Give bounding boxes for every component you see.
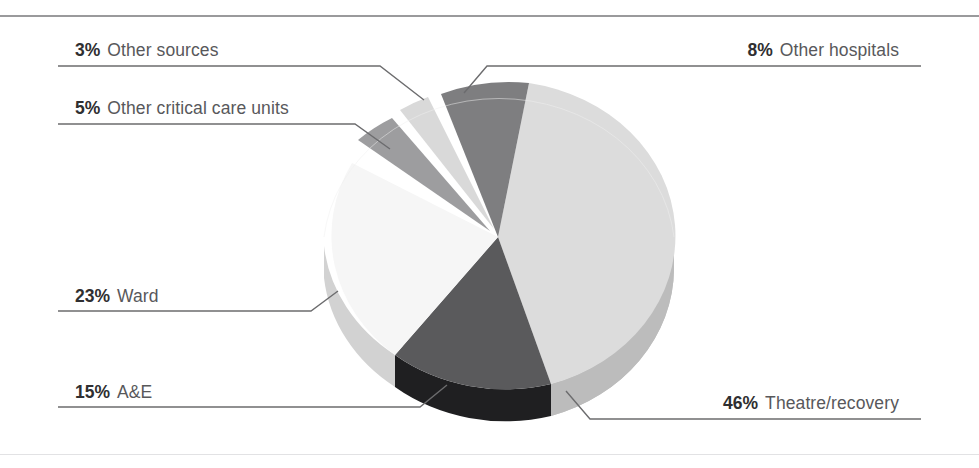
callout-label-theatre-recovery: 46%Theatre/recovery — [723, 395, 899, 413]
callout-text-ward: Ward — [117, 286, 159, 306]
callout-text-other-sources: Other sources — [107, 40, 218, 60]
callout-label-other-sources: 3%Other sources — [75, 42, 219, 60]
callout-percent-ae: 15% — [75, 382, 110, 402]
leader-line-other-sources — [58, 66, 424, 100]
callout-percent-other-critical-care-units: 5% — [75, 98, 100, 118]
callout-text-ae: A&E — [117, 382, 152, 402]
callout-label-other-critical-care-units: 5%Other critical care units — [75, 100, 289, 118]
callout-label-ae: 15%A&E — [75, 384, 152, 402]
callout-percent-other-sources: 3% — [75, 40, 100, 60]
callout-text-theatre-recovery: Theatre/recovery — [765, 393, 899, 413]
callout-label-other-hospitals: 8%Other hospitals — [748, 42, 900, 60]
callout-percent-other-hospitals: 8% — [748, 40, 773, 60]
callout-text-other-critical-care-units: Other critical care units — [107, 98, 288, 118]
pie-chart-figure: 3%Other sources 5%Other critical care un… — [0, 0, 979, 468]
leader-line-other-ccu — [58, 124, 390, 149]
callout-text-other-hospitals: Other hospitals — [780, 40, 899, 60]
callout-percent-ward: 23% — [75, 286, 110, 306]
callout-percent-theatre-recovery: 46% — [723, 393, 758, 413]
callout-label-ward: 23%Ward — [75, 288, 159, 306]
pie-top-faces — [331, 82, 675, 389]
